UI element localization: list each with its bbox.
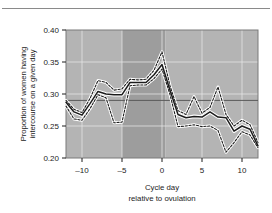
x-axis-label-line2: relative to ovulation: [128, 194, 195, 203]
figure-container: 0.200.250.300.350.40 –10–50510 Proportio…: [0, 0, 272, 213]
y-axis-tick-label: 0.20: [43, 154, 59, 163]
x-axis-tick-label: –10: [75, 166, 89, 175]
x-axis-tick-label: 0: [160, 166, 165, 175]
y-axis-tick-label: 0.40: [43, 26, 59, 35]
y-axis-label-line1: Proportion of women having: [19, 47, 28, 142]
x-axis-tick-label: 5: [200, 166, 205, 175]
x-axis-label: Cycle day relative to ovulation: [128, 183, 195, 203]
y-axis-tick-label: 0.30: [43, 90, 59, 99]
cycle-day-intercourse-line-chart: 0.200.250.300.350.40 –10–50510 Proportio…: [0, 0, 272, 213]
x-axis-label-line1: Cycle day: [145, 183, 179, 192]
y-axis-label-line2: intercourse on a given day: [28, 49, 37, 138]
x-axis: –10–50510: [75, 158, 247, 175]
y-axis: 0.200.250.300.350.40: [43, 26, 66, 163]
y-axis-tick-label: 0.35: [43, 58, 59, 67]
x-axis-tick-label: –5: [118, 166, 127, 175]
y-axis-label: Proportion of women having intercourse o…: [19, 47, 37, 142]
x-axis-tick-label: 10: [238, 166, 247, 175]
y-axis-tick-label: 0.25: [43, 122, 59, 131]
